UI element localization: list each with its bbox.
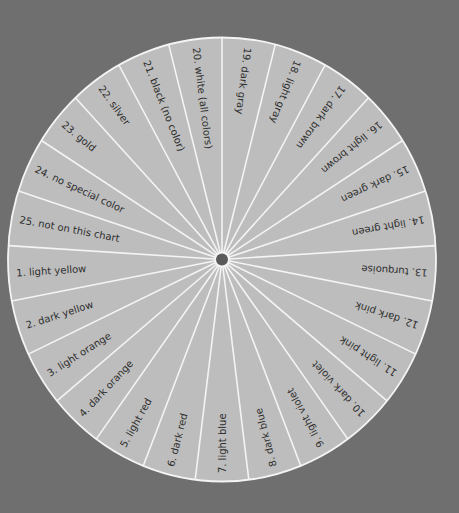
color-wheel: 1. light yellow 2. dark yellow 3. light … bbox=[0, 0, 459, 513]
segment-label-7: 7. light blue bbox=[217, 413, 228, 473]
hub-dot-center bbox=[216, 254, 228, 266]
